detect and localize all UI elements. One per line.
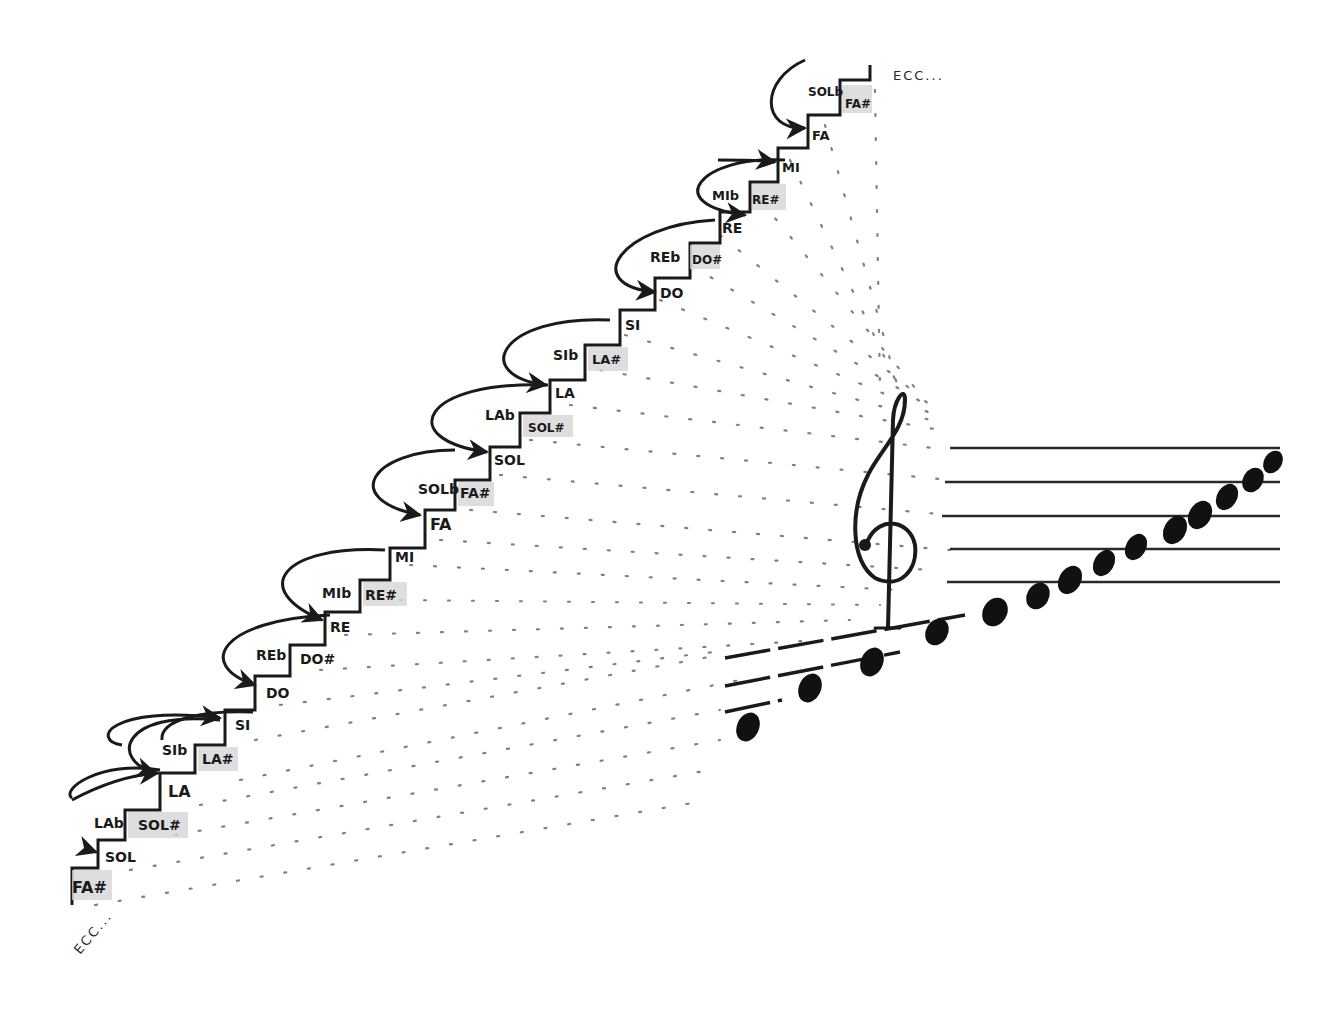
label-fa-sharp-high: FA# bbox=[845, 97, 871, 111]
label-do-sharp-low: DO# bbox=[300, 651, 335, 667]
note-head bbox=[732, 709, 765, 745]
label-sol-flat: SOLb bbox=[418, 481, 459, 497]
note-head bbox=[1021, 578, 1054, 613]
label-si-flat: SIb bbox=[553, 347, 578, 363]
label-la-sharp: LA# bbox=[592, 352, 621, 367]
dotted-projection-lines bbox=[95, 90, 950, 905]
label-la-low: LA bbox=[168, 782, 191, 801]
label-do-low: DO bbox=[266, 685, 290, 701]
label-fa-sharp-low: FA# bbox=[72, 878, 107, 897]
label-la-flat: LAb bbox=[485, 407, 515, 423]
note-head bbox=[1238, 464, 1268, 497]
label-si-flat-low: SIb bbox=[162, 742, 187, 758]
label-sol-low: SOL bbox=[105, 849, 136, 865]
label-sol-flat-high: SOLb bbox=[808, 85, 843, 99]
note-head bbox=[977, 593, 1013, 631]
label-do-sharp: DO# bbox=[692, 253, 722, 267]
label-la-flat-low: LAb bbox=[94, 815, 124, 831]
enharmonic-arrows bbox=[70, 60, 805, 852]
chromatic-staircase-diagram: FA# SOL LAb SOL# LA SIb LA# SI DO REb DO… bbox=[0, 0, 1333, 1018]
label-mi: MI bbox=[782, 160, 800, 175]
label-si: SI bbox=[625, 317, 640, 333]
label-fa-high: FA bbox=[812, 128, 829, 143]
label-fa-sharp: FA# bbox=[460, 485, 491, 501]
label-mi-low: MI bbox=[395, 549, 414, 565]
label-re-sharp-low: RE# bbox=[365, 587, 397, 603]
label-re: RE bbox=[722, 220, 742, 236]
label-sol-sharp-low: SOL# bbox=[138, 817, 181, 833]
note-labels: FA# SOL LAb SOL# LA SIb LA# SI DO REb DO… bbox=[71, 68, 944, 957]
continuation-bottom: ECC... bbox=[71, 908, 115, 957]
note-head bbox=[1211, 480, 1242, 514]
label-re-flat: REb bbox=[650, 249, 680, 265]
label-mi-flat-low: MIb bbox=[322, 585, 351, 601]
label-do: DO bbox=[660, 285, 684, 301]
label-la-sharp-low: LA# bbox=[202, 751, 234, 767]
note-head bbox=[1259, 447, 1287, 477]
label-fa: FA bbox=[430, 515, 452, 534]
note-head bbox=[794, 670, 827, 706]
note-head bbox=[1088, 546, 1119, 580]
label-re-flat-low: REb bbox=[256, 647, 286, 663]
note-heads bbox=[732, 447, 1287, 745]
continuation-top: ECC... bbox=[893, 68, 944, 83]
label-la: LA bbox=[555, 385, 575, 401]
label-sol: SOL bbox=[494, 452, 525, 468]
label-mi-flat: MIb bbox=[712, 188, 739, 203]
label-re-sharp: RE# bbox=[752, 193, 780, 207]
label-sol-sharp: SOL# bbox=[528, 421, 565, 435]
note-head bbox=[1120, 530, 1151, 564]
note-head bbox=[856, 644, 889, 680]
label-re-low: RE bbox=[330, 619, 350, 635]
label-si-low: SI bbox=[235, 717, 250, 733]
note-head bbox=[1053, 562, 1087, 599]
